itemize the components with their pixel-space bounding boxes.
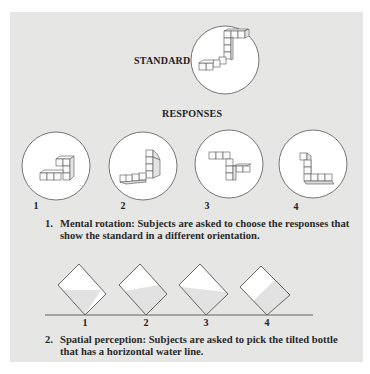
caption-1-text: Mental rotation: Subjects are asked to c… [60,218,370,242]
standard-label: STANDARD [134,55,190,66]
bottle-number-1: 1 [75,317,95,328]
response-figure-1[interactable] [22,132,90,200]
caption-mental-rotation: 1. Mental rotation: Subjects are asked t… [45,218,370,244]
caption-spatial-perception: 2. Spatial perception: Subjects are aske… [45,334,370,360]
response-figure-4[interactable] [279,130,347,198]
response-number-3: 3 [197,200,217,211]
bottle-3[interactable] [179,264,228,315]
caption-2-number: 2. [45,334,53,346]
bottle-1[interactable] [58,264,106,315]
bottle-4[interactable] [240,266,290,315]
bottle-number-4: 4 [257,317,277,328]
response-number-1: 1 [26,200,46,211]
bottle-number-3: 3 [196,317,216,328]
response-figure-2[interactable] [109,132,177,200]
standard-figure [191,26,259,94]
responses-label: RESPONSES [162,108,222,119]
response-number-4: 4 [286,201,306,212]
bottle-2[interactable] [119,264,167,315]
bottle-number-2: 2 [136,317,156,328]
caption-2-text: Spatial perception: Subjects are asked t… [60,334,350,358]
response-number-2: 2 [113,200,133,211]
caption-1-number: 1. [45,218,53,230]
response-figure-3[interactable] [195,130,263,198]
